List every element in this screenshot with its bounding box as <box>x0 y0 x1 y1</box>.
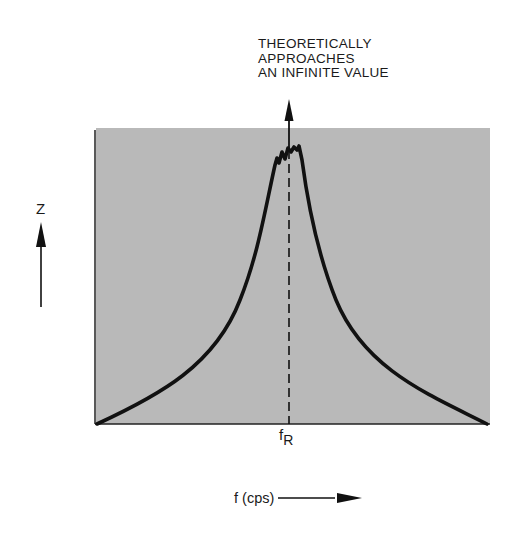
infinity-arrow-icon <box>285 99 294 121</box>
y-axis-label: Z <box>36 200 45 217</box>
z-arrow-icon <box>36 222 46 247</box>
impedance-chart <box>0 0 514 539</box>
fr-subscript: R <box>283 432 293 448</box>
x-axis-label: f (cps) <box>234 490 274 506</box>
resonant-frequency-label: fR <box>279 426 293 448</box>
f-arrow-icon <box>337 493 362 503</box>
plot-area <box>96 128 490 424</box>
